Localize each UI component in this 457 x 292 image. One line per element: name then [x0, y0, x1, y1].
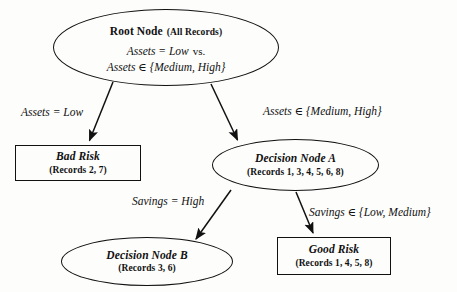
node-root[interactable]: Root Node (All Records) Assets = Low vs.… [53, 9, 279, 86]
node-decision-b[interactable]: Decision Node B (Records 3, 6) [61, 237, 233, 286]
node-bad-risk[interactable]: Bad Risk (Records 2, 7) [15, 145, 141, 181]
edge-root-to-decision-a [211, 84, 238, 140]
edge-label-decision-a-to-decision-b: Savings = High [132, 195, 204, 207]
node-decision-b-name: Decision Node B [106, 249, 187, 263]
node-root-rule-line-2: Assets ∈ {Medium, High} [107, 61, 226, 75]
node-root-rule-line-1: Assets = Low vs. [127, 41, 206, 60]
node-root-name: Root Node [110, 25, 163, 37]
node-decision-a-records: (Records 1, 3, 4, 5, 6, 8) [247, 167, 344, 178]
node-root-records: (All Records) [167, 27, 222, 37]
node-decision-b-records: (Records 3, 6) [118, 263, 176, 274]
edge-root-to-bad-risk [90, 82, 114, 141]
edge-label-root-to-decision-a: Assets ∈ {Medium, High} [263, 104, 382, 118]
node-decision-a-name: Decision Node A [255, 152, 336, 166]
node-root-rule-1-suffix: vs. [193, 45, 206, 57]
node-bad-risk-name: Bad Risk [56, 150, 100, 164]
node-bad-risk-records: (Records 2, 7) [49, 165, 107, 176]
node-decision-a[interactable]: Decision Node A (Records 1, 3, 4, 5, 6, … [212, 139, 379, 191]
node-root-rule-1-text: Assets = Low [127, 45, 189, 57]
node-good-risk[interactable]: Good Risk (Records 1, 4, 5, 8) [277, 237, 391, 275]
edge-label-root-to-bad-risk: Assets = Low [21, 106, 83, 118]
edge-label-decision-a-to-good-risk: Savings ∈ {Low, Medium} [309, 205, 431, 219]
decision-tree-diagram: Root Node (All Records) Assets = Low vs.… [0, 0, 457, 292]
node-good-risk-records: (Records 1, 4, 5, 8) [295, 258, 372, 269]
node-root-title: Root Node (All Records) [110, 21, 222, 40]
node-good-risk-name: Good Risk [309, 243, 359, 257]
